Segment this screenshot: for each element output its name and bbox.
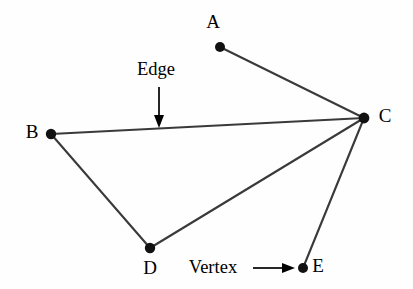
- vertex-a-dot[interactable]: [215, 42, 225, 52]
- vertex-e-dot[interactable]: [298, 263, 308, 273]
- vertex-c-dot[interactable]: [359, 113, 370, 124]
- graph-diagram-canvas: Edge Vertex A B C D E: [0, 0, 413, 289]
- edge-annotation-label: Edge: [137, 59, 175, 79]
- vertex-b-label: B: [26, 121, 39, 142]
- vertex-e-label: E: [312, 255, 324, 276]
- vertex-b-dot[interactable]: [46, 129, 56, 139]
- vertex-annotation-label: Vertex: [189, 257, 238, 277]
- vertex-d-dot[interactable]: [145, 243, 155, 253]
- diagram-background: [0, 0, 413, 289]
- vertex-a-label: A: [206, 11, 220, 32]
- graph-diagram-svg: Edge Vertex A B C D E: [0, 0, 413, 289]
- vertex-c-label: C: [379, 105, 392, 126]
- vertex-d-label: D: [143, 257, 157, 278]
